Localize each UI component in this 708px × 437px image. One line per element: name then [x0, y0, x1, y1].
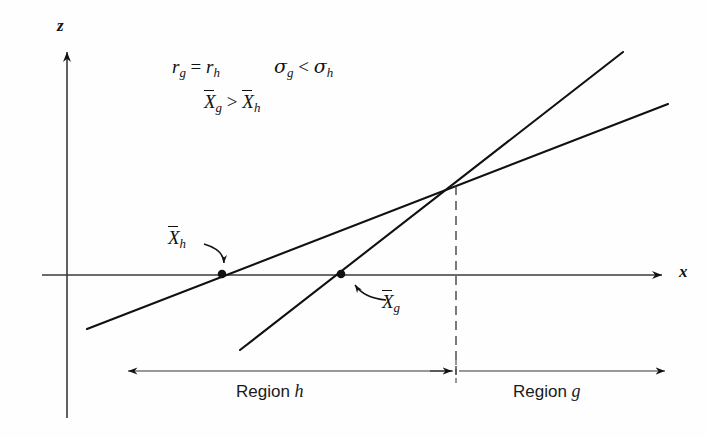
eq2-rel-greater-than: > — [222, 91, 242, 112]
x-bar-h-point — [218, 270, 227, 279]
eq1-rel-equals: = — [186, 56, 206, 77]
eq1-r-h-sub: h — [213, 65, 219, 80]
region-h-label: Region h — [236, 382, 304, 400]
eq1-sigma-h-base: σ — [314, 55, 327, 77]
eq1-rel-less-than: < — [293, 56, 313, 77]
x-bar-g-label: Xg — [382, 292, 400, 315]
line-h — [87, 104, 668, 329]
figure-canvas: z x rg = rh σg < σh Xg > Xh Xh Xg Region… — [0, 0, 708, 437]
region-h-symbol: h — [295, 381, 304, 401]
region-g-text: Region — [513, 382, 572, 401]
line-g — [240, 52, 623, 350]
x-axis-label: x — [679, 263, 688, 280]
eq1-sigma-h-sub: h — [327, 65, 333, 80]
x-bar-g-point — [337, 270, 346, 279]
figure-vector-layer — [0, 0, 708, 437]
x-bar-h-pointer-arrow — [204, 244, 224, 263]
eq2-xbar-g-base: X — [204, 92, 216, 111]
x-bar-h-base: X — [168, 228, 180, 247]
region-g-symbol: g — [572, 381, 581, 401]
z-axis-label: z — [57, 17, 64, 34]
eq2-xbar-h-sub: h — [254, 100, 260, 115]
x-bar-g-sub: g — [394, 300, 400, 315]
eq2-xbar-h-base: X — [242, 92, 254, 111]
equation-line-2: Xg > Xh — [204, 92, 260, 115]
region-g-label: Region g — [513, 382, 581, 400]
x-bar-h-label: Xh — [168, 228, 186, 251]
eq1-sigma-g-base: σ — [274, 55, 287, 77]
equation-line-1: rg = rh — [172, 57, 220, 80]
region-h-text: Region — [236, 382, 295, 401]
x-bar-g-base: X — [382, 292, 394, 311]
equation-line-1-right: σg < σh — [274, 57, 333, 80]
x-bar-h-sub: h — [180, 236, 186, 251]
